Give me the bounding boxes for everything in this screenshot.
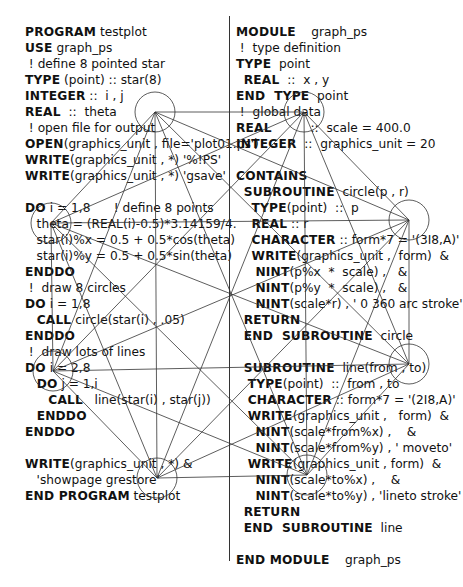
- star-line: [304, 112, 409, 220]
- star-line: [155, 112, 157, 478]
- star-line: [51, 223, 307, 475]
- star-line: [51, 220, 409, 223]
- star-line: [53, 364, 409, 371]
- star-line: [53, 371, 307, 475]
- star-line: [307, 364, 409, 475]
- star-line: [157, 475, 307, 478]
- star-line: [53, 371, 157, 478]
- star-line: [157, 364, 409, 478]
- star-line: [53, 112, 155, 371]
- star-line: [51, 223, 157, 478]
- star-line: [51, 112, 155, 223]
- star-line: [53, 220, 409, 371]
- star-line: [155, 112, 409, 364]
- star-line: [307, 220, 409, 475]
- star-line: [53, 112, 304, 371]
- star-line: [304, 112, 307, 475]
- star-line: [51, 223, 409, 364]
- star-line: [51, 223, 53, 371]
- star-line: [304, 112, 409, 364]
